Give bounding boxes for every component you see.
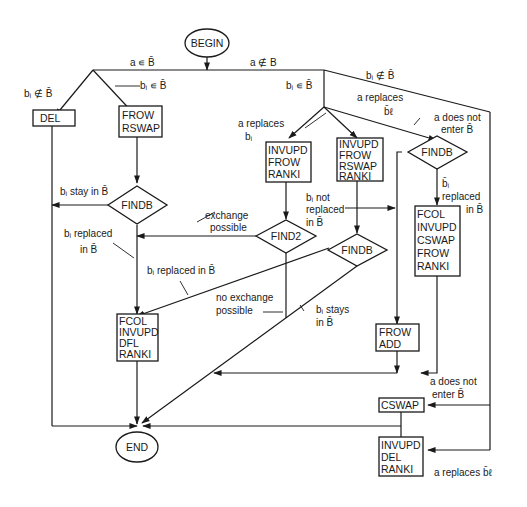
end-node: END (116, 432, 158, 462)
invupd-del-ranki-box-line: DEL (381, 451, 402, 463)
edge-to-invupd-frow-ranki (289, 107, 324, 138)
frow-rswap-box-line: FROW (122, 109, 154, 121)
findb-left-label: FINDB (121, 199, 153, 211)
label-a-does-not-enter-bottom: enter B̄ (432, 388, 465, 400)
label-bi-in-left: bᵢ ∊ B̄ (140, 79, 167, 91)
label-no-exchange: possible (216, 305, 253, 316)
del-box: DEL (33, 110, 75, 126)
label-a-replaces-bi: a replaces (238, 118, 284, 129)
label-bi-replaced-2: bᵢ replaced in B̄ (147, 264, 216, 276)
invupd-frow-ranki-box-line: FROW (268, 156, 300, 168)
label-bbar-i-replaced: b̄ᵢ (442, 177, 450, 189)
edge-to-del (55, 70, 93, 116)
invupd-frow-rswap-ranki-box-line: RANKI (339, 170, 371, 182)
label-a-does-not-enter-bottom: a does not (430, 376, 477, 387)
begin-label: BEGIN (191, 37, 224, 49)
edge-bi-notin-right (324, 70, 490, 112)
fcol-dfl-box-line: RANKI (119, 348, 151, 360)
label-bi-notin-left: bᵢ ∉ B̄ (24, 87, 53, 99)
label-bi-not-replaced: in B̄ (306, 216, 324, 228)
end-label: END (126, 441, 149, 453)
label-bi-stays: bᵢ stays (316, 304, 349, 315)
label-exchange-possible: possible (210, 222, 247, 233)
findb-middle-label: FINDB (341, 244, 373, 256)
label-a-replaces-bl-top: a replaces (357, 92, 403, 103)
label-a-replaces-bl-bottom: a replaces b̄ℓ (434, 466, 492, 478)
edge-findb-middle-to-end (142, 266, 357, 423)
invupd-frow-ranki-box-line: INVUPD (268, 144, 308, 156)
invupd-del-ranki-box-line: INVUPD (381, 439, 421, 451)
label-bbar-i-replaced: in B̄ (466, 203, 484, 215)
findb-middle-diamond: FINDB (328, 234, 387, 266)
fcol-cswap-box-line: RANKI (417, 260, 449, 272)
label-bi-notin-right: bᵢ ∉ B̄ (366, 69, 395, 81)
frow-add-box-line: FROW (379, 326, 411, 338)
fcol-cswap-box-line: FROW (417, 247, 449, 259)
begin-node: BEGIN (185, 29, 229, 57)
invupd-del-ranki-box: INVUPD DEL RANKI (379, 437, 423, 476)
label-bi-not-replaced: bᵢ not (306, 192, 330, 203)
label-bi-replaced-1: bᵢ replaced (64, 228, 112, 239)
label-no-exchange: no exchange (216, 292, 274, 303)
label-bi-replaced-1: in B̄ (80, 243, 98, 255)
find2-label: FIND2 (271, 230, 301, 242)
invupd-del-ranki-box-line: RANKI (381, 463, 413, 475)
frow-add-box-line: ADD (379, 338, 402, 350)
label-a-notin-b: a ∉ B (250, 57, 277, 68)
label-a-replaces-bl-top: b̄ℓ (384, 105, 394, 117)
label-a-does-not-enter-top: enter B̄ (441, 123, 474, 135)
fcol-cswap-box-line: FCOL (417, 208, 445, 220)
edge-findb-right-to-frow-add (397, 152, 402, 324)
cswap-box-line: CSWAP (381, 399, 419, 411)
invupd-frow-ranki-box: INVUPD FROW RANKI (266, 142, 311, 182)
fcol-cswap-box-line: CSWAP (417, 234, 455, 246)
findb-right-diamond: FINDB (408, 136, 467, 169)
label-a-in-bbar: a ∊ B̄ (130, 56, 155, 68)
fcol-invupd-dfl-ranki-box: FCOL INVUPD DFL RANKI (117, 314, 159, 361)
fcol-cswap-box-line: INVUPD (417, 221, 457, 233)
frow-rswap-box: FROW RSWAP (119, 106, 162, 137)
label-a-does-not-enter-top: a does not (434, 112, 481, 123)
edge-fcol-cswap-to-bus (421, 276, 437, 373)
label-bi-stay: bᵢ stay in B̄ (60, 185, 109, 197)
label-a-replaces-bi: bᵢ (245, 131, 253, 142)
label-bi-stays: in B̄ (316, 316, 334, 328)
invupd-frow-rswap-ranki-box: INVUPD FROW RSWAP RANKI (337, 138, 383, 182)
label-bi-in-right: bᵢ ∊ B̄ (286, 79, 313, 91)
del-box-line: DEL (40, 112, 61, 124)
frow-rswap-box-line: RSWAP (122, 122, 160, 134)
cswap-box: CSWAP (379, 398, 424, 412)
invupd-frow-ranki-box-line: RANKI (268, 168, 300, 180)
label-bi-not-replaced: replaced (306, 204, 344, 215)
flowchart: BEGIN END DEL FROW RSWAP FINDB INVUPD FR… (0, 0, 527, 507)
label-bbar-i-replaced: replaced (442, 191, 480, 202)
findb-right-label: FINDB (421, 146, 453, 158)
frow-add-box: FROW ADD (376, 324, 419, 351)
findb-left-diamond: FINDB (108, 186, 167, 224)
fcol-invupd-cswap-frow-ranki-box: FCOL INVUPD CSWAP FROW RANKI (415, 206, 460, 276)
label-exchange-possible: exchange (205, 210, 249, 221)
